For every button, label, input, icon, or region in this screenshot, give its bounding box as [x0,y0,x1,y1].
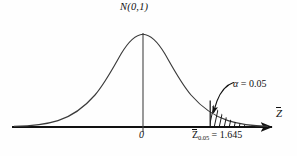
axis-variable-symbol: Z [276,108,282,119]
critical-value-label: Z0.05 = 1.645 [192,130,242,140]
origin-tick-label: 0 [139,130,144,140]
distribution-title: N(0,1) [120,2,148,13]
alpha-value: 0.05 [249,78,267,89]
alpha-leader-arrow [214,83,234,113]
critical-value-equals: = [209,129,220,140]
alpha-annotation: α = 0.05 [233,79,266,89]
alpha-equals: = [238,78,249,89]
critical-value-subscript: 0.05 [198,134,209,141]
normal-curve [14,34,268,126]
critical-value-number: 1.645 [220,129,243,140]
axis-variable-label: Z [276,108,282,119]
normal-distribution-figure: N(0,1) 0 α = 0.05 Z0.05 = 1.645 Z [0,0,297,156]
